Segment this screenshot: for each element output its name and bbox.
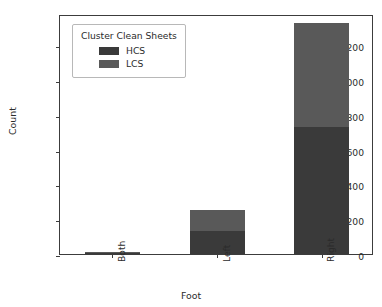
legend-title: Cluster Clean Sheets: [81, 30, 177, 41]
y-axis-label: Count: [7, 107, 18, 135]
y-tick-mark: [56, 186, 60, 187]
x-tick-mark: [112, 254, 113, 258]
x-tick-label: Right: [325, 238, 336, 262]
y-tick-label: 0: [358, 251, 364, 262]
y-tick-mark: [56, 256, 60, 257]
y-tick-mark: [56, 47, 60, 48]
bar-segment-lcs: [190, 210, 245, 231]
legend-label: LCS: [126, 58, 143, 69]
x-axis-label: Foot: [0, 290, 382, 301]
x-tick-label: Left: [221, 245, 232, 262]
bar-stack: [294, 23, 349, 254]
legend-label: HCS: [126, 45, 145, 56]
x-tick-mark: [217, 254, 218, 258]
legend-entry: HCS: [99, 45, 177, 56]
y-tick-mark: [56, 82, 60, 83]
legend-entry: LCS: [99, 58, 177, 69]
bar-segment-hcs: [190, 231, 245, 254]
chart-legend: Cluster Clean Sheets HCSLCS: [72, 24, 186, 78]
bar-stack: [190, 210, 245, 254]
plot-area: 020040060080010001200 Cluster Clean Shee…: [59, 15, 373, 255]
x-tick-label: Both: [116, 241, 127, 262]
chart-figure: Count 020040060080010001200 Cluster Clea…: [0, 0, 382, 307]
bar-segment-lcs: [294, 23, 349, 127]
y-tick-mark: [56, 221, 60, 222]
legend-swatch-lcs: [99, 60, 119, 68]
y-tick-mark: [56, 117, 60, 118]
y-tick-mark: [56, 152, 60, 153]
bar-segment-hcs: [294, 127, 349, 254]
legend-entries: HCSLCS: [81, 45, 177, 69]
x-tick-mark: [322, 254, 323, 258]
legend-swatch-hcs: [99, 47, 119, 55]
